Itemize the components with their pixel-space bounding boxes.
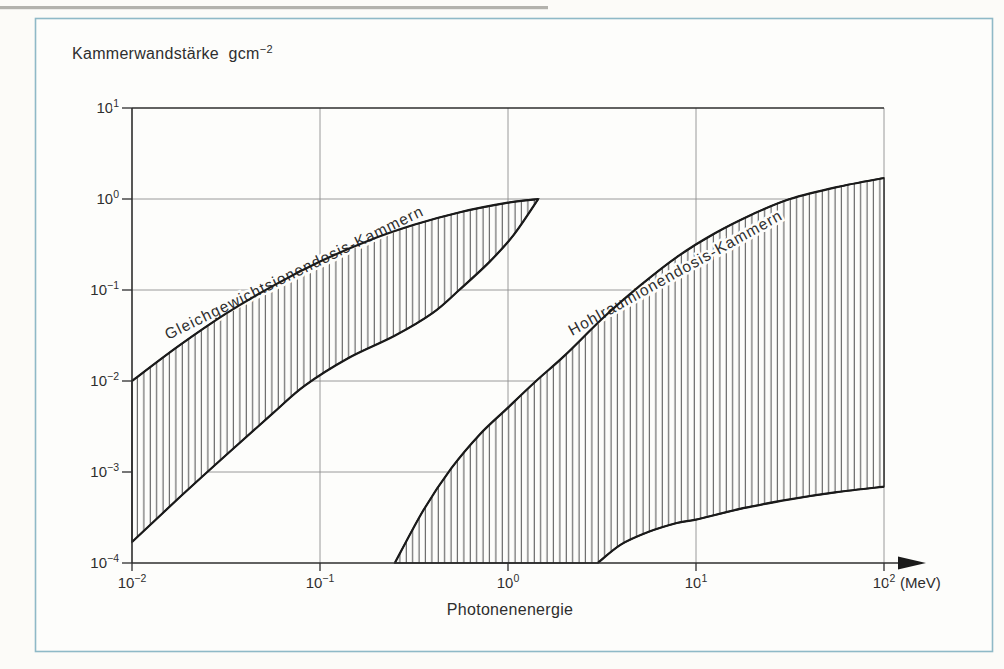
x-axis-label: Photonenenergie	[447, 601, 573, 619]
scanned-figure-page: Gleichgewichtsionendosis-KammernHohlraum…	[0, 0, 1004, 669]
x-axis-unit: (MeV)	[900, 574, 941, 591]
scan-edge-line	[0, 6, 548, 9]
chart-title: Kammerwandstärke gcm−2	[72, 43, 273, 63]
chart-svg: Gleichgewichtsionendosis-KammernHohlraum…	[0, 0, 1004, 669]
chart-title-text: Kammerwandstärke gcm	[72, 45, 260, 62]
chart-title-exponent: −2	[260, 43, 273, 55]
